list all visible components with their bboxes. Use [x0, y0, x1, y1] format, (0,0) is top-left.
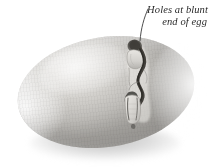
egg-annotated-photo-figure: Holes at blunt end of egg Holes at blunt… [0, 0, 211, 168]
annotation-line-2: end of egg [120, 16, 208, 28]
annotation-line-1: Holes at blunt [120, 4, 208, 16]
annotation-callout: Holes at blunt end of egg [120, 4, 208, 27]
